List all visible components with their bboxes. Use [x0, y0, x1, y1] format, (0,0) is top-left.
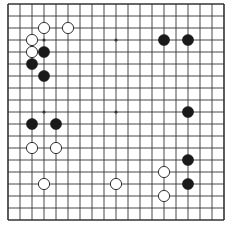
white-stone[interactable] — [50, 142, 61, 153]
white-stone[interactable] — [26, 34, 37, 45]
black-stone[interactable] — [38, 46, 49, 57]
star-point — [114, 38, 117, 41]
white-stone[interactable] — [158, 166, 169, 177]
black-stone[interactable] — [26, 58, 37, 69]
black-stone[interactable] — [182, 106, 193, 117]
black-stone[interactable] — [38, 70, 49, 81]
white-stone[interactable] — [62, 22, 73, 33]
go-board[interactable] — [0, 0, 231, 232]
white-stone[interactable] — [38, 178, 49, 189]
white-stone[interactable] — [38, 22, 49, 33]
black-stone[interactable] — [158, 34, 169, 45]
star-point — [42, 38, 45, 41]
white-stone[interactable] — [26, 46, 37, 57]
black-stone[interactable] — [182, 154, 193, 165]
black-stone[interactable] — [50, 118, 61, 129]
black-stone[interactable] — [182, 34, 193, 45]
white-stone[interactable] — [26, 142, 37, 153]
black-stone[interactable] — [182, 178, 193, 189]
star-point — [42, 110, 45, 113]
white-stone[interactable] — [158, 190, 169, 201]
black-stone[interactable] — [26, 118, 37, 129]
star-point — [114, 110, 117, 113]
white-stone[interactable] — [110, 178, 121, 189]
